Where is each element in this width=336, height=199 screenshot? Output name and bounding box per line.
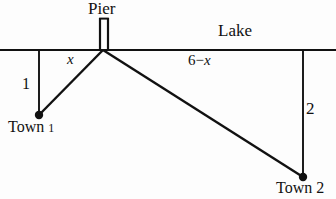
town1-distance-label: 1 (22, 76, 30, 92)
town2-label-name: Town (276, 179, 312, 196)
diagram-graphics (0, 0, 336, 199)
pier-to-town2-line (103, 50, 303, 177)
town2-label-index: 2 (316, 179, 324, 196)
diagram-canvas: Pier Lake x 6−x 1 2 Town 1 Town 2 (0, 0, 336, 199)
segment-x-label: x (67, 52, 74, 67)
town2-distance-label: 2 (306, 100, 315, 117)
segment-six-minus-x-prefix: 6− (188, 52, 204, 68)
town2-label: Town 2 (276, 180, 324, 196)
pier-structure (99, 18, 109, 50)
pier-label: Pier (88, 0, 115, 17)
town1-label: Town 1 (8, 119, 54, 135)
lake-label: Lake (218, 22, 252, 39)
segment-six-minus-x-variable: x (204, 52, 211, 68)
town1-label-name: Town (8, 118, 44, 135)
town1-label-index: 1 (48, 121, 54, 135)
segment-six-minus-x-label: 6−x (188, 53, 211, 68)
